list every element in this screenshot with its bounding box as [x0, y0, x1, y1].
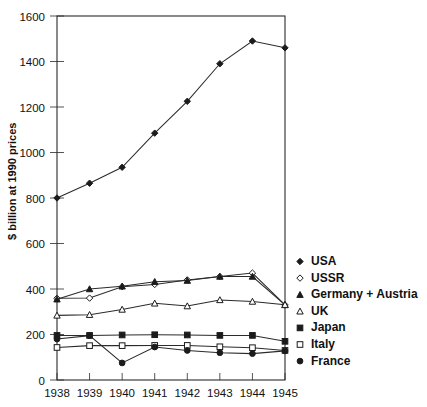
legend-item-ussr[interactable]: USSR	[297, 271, 345, 285]
legend-item-germany-austria[interactable]: Germany + Austria	[297, 287, 418, 301]
legend-item-uk[interactable]: UK	[297, 304, 329, 318]
data-point-marker	[217, 333, 223, 339]
legend-marker-icon	[297, 342, 303, 348]
y-tick-label: 1600	[19, 11, 45, 23]
x-tick-label: 1943	[207, 387, 233, 399]
legend-item-italy[interactable]: Italy	[297, 337, 335, 351]
y-axis-title-label: $ billion at 1990 prices	[6, 123, 18, 240]
data-point-marker	[54, 195, 60, 201]
legend-item-label: Japan	[311, 320, 346, 334]
y-tick-label: 400	[26, 284, 45, 296]
data-point-marker	[119, 343, 125, 349]
legend-item-label: France	[311, 354, 351, 368]
y-tick-label: 600	[26, 238, 45, 250]
data-point-marker	[86, 295, 92, 301]
plot-frame	[57, 16, 285, 380]
data-point-marker	[282, 348, 288, 354]
legend-marker-icon	[297, 258, 303, 264]
line-chart: $ billion at 1990 prices 020040060080010…	[0, 0, 427, 407]
series-line	[57, 41, 285, 198]
legend-marker-icon	[297, 325, 303, 331]
data-point-marker	[152, 344, 158, 350]
legend-marker-icon	[297, 292, 303, 298]
y-tick-label: 1200	[19, 102, 45, 114]
x-tick-label: 1941	[142, 387, 168, 399]
chart-container: $ billion at 1990 prices 020040060080010…	[0, 0, 427, 407]
data-point-marker	[250, 345, 256, 351]
x-tick-label: 1942	[174, 387, 200, 399]
legend-item-label: USSR	[311, 271, 345, 285]
data-point-marker	[282, 45, 288, 51]
legend-item-label: USA	[311, 254, 337, 268]
x-tick-label: 1945	[272, 387, 298, 399]
legend-marker-icon	[297, 275, 303, 281]
data-point-marker	[87, 343, 93, 349]
y-axis-title: $ billion at 1990 prices	[6, 123, 18, 240]
legend-item-france[interactable]: France	[297, 354, 351, 368]
x-tick-label: 1939	[77, 387, 103, 399]
data-point-marker	[217, 350, 223, 356]
series-layer	[54, 38, 288, 366]
series-usa	[54, 38, 288, 201]
data-point-marker	[184, 348, 190, 354]
data-point-marker	[250, 333, 256, 339]
data-point-marker	[119, 360, 125, 366]
data-point-marker	[87, 333, 93, 339]
legend-item-label: Germany + Austria	[311, 287, 418, 301]
data-point-marker	[54, 345, 60, 351]
data-point-marker	[282, 339, 288, 345]
y-tick-label: 1000	[19, 147, 45, 159]
y-tick-label: 200	[26, 329, 45, 341]
data-point-marker	[119, 332, 125, 338]
x-tick-label: 1940	[109, 387, 135, 399]
y-tick-label: 0	[39, 375, 45, 387]
y-tick-label: 800	[26, 193, 45, 205]
legend-item-japan[interactable]: Japan	[297, 320, 346, 334]
data-point-marker	[54, 336, 60, 342]
x-axis-ticks: 19381939194019411942194319441945	[44, 373, 298, 399]
data-point-marker	[217, 344, 223, 350]
x-tick-label: 1938	[44, 387, 70, 399]
data-point-marker	[152, 332, 158, 338]
legend-marker-icon	[297, 358, 303, 364]
legend-marker-icon	[297, 308, 303, 314]
chart-legend: USAUSSRGermany + AustriaUKJapanItalyFran…	[297, 254, 418, 368]
legend-item-label: Italy	[311, 337, 335, 351]
data-point-marker	[184, 332, 190, 338]
data-point-marker	[86, 180, 92, 186]
y-tick-label: 1400	[19, 56, 45, 68]
legend-item-usa[interactable]: USA	[297, 254, 337, 268]
data-point-marker	[250, 351, 256, 357]
legend-item-label: UK	[311, 304, 329, 318]
x-tick-label: 1944	[240, 387, 266, 399]
data-point-marker	[249, 38, 255, 44]
